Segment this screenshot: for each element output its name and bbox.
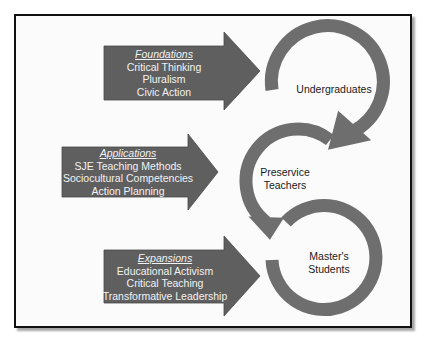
expansions-arrow: Expansions Educational Activism Critical…: [100, 252, 230, 302]
expansions-heading: Expansions: [100, 252, 230, 265]
applications-item: Sociocultural Competencies: [58, 172, 198, 185]
node-label-line: Undergraduates: [284, 83, 384, 96]
foundations-item: Civic Action: [104, 86, 224, 99]
expansions-item: Transformative Leadership: [100, 290, 230, 303]
applications-heading: Applications: [58, 147, 198, 160]
expansions-item: Critical Teaching: [100, 277, 230, 290]
applications-arrow: Applications SJE Teaching Methods Socioc…: [58, 147, 198, 197]
node-label-line: Teachers: [240, 179, 330, 192]
preservice-teachers-node-label: Preservice Teachers: [240, 166, 330, 192]
foundations-item: Critical Thinking: [104, 61, 224, 74]
expansions-item: Educational Activism: [100, 265, 230, 278]
foundations-arrow: Foundations Critical Thinking Pluralism …: [104, 48, 224, 98]
node-label-line: Students: [289, 263, 369, 276]
applications-item: SJE Teaching Methods: [58, 160, 198, 173]
node-label-line: Master's: [289, 250, 369, 263]
applications-item: Action Planning: [58, 185, 198, 198]
undergraduates-node-label: Undergraduates: [284, 83, 384, 96]
foundations-item: Pluralism: [104, 73, 224, 86]
foundations-heading: Foundations: [104, 48, 224, 61]
masters-students-node-label: Master's Students: [289, 250, 369, 276]
node-label-line: Preservice: [240, 166, 330, 179]
